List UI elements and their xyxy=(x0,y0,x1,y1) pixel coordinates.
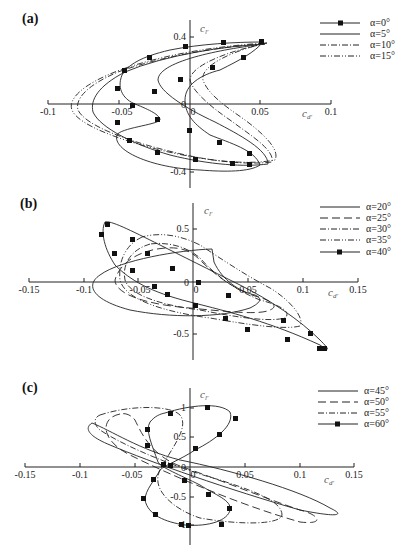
x-tick: -0.1 xyxy=(40,106,56,117)
figure: (a) -0.1 -0.05 0 0.05 0.1 0 0.4 -0.4 cl'… xyxy=(0,0,407,560)
legend-entry: α=35° xyxy=(366,234,391,245)
x-axis-label: cd' xyxy=(324,473,334,487)
x-tick: -0.1 xyxy=(76,284,92,295)
y-tick: 0.5 xyxy=(177,223,190,234)
legend-entry: α=50° xyxy=(364,396,389,407)
legend-c: α=45° α=50° α=55° α=60° xyxy=(318,385,389,429)
legend-entry: α=0° xyxy=(370,17,390,28)
legend-b: α=20° α=25° α=30° α=35° α=40° xyxy=(320,201,391,257)
y-axis-label: cl' xyxy=(200,22,209,36)
y-tick: 0.5 xyxy=(174,431,187,442)
legend-entry: α=10° xyxy=(370,39,395,50)
x-axis-label: cd' xyxy=(302,107,312,121)
panel-c: (c) -0.15 -0.1 -0.05 0 0.05 0.1 0.15 0 1… xyxy=(15,380,389,545)
legend-entry: α=55° xyxy=(364,407,389,418)
x-tick: -0.05 xyxy=(112,106,133,117)
y-axis-label: cl' xyxy=(204,204,213,218)
x-tick: 0.1 xyxy=(294,469,307,480)
panel-b: (b) -0.15 -0.1 -0.05 0 0.05 0.1 0.15 0 0… xyxy=(19,196,391,360)
panel-a-label: (a) xyxy=(22,11,39,27)
x-axis-label: cd' xyxy=(328,286,338,300)
x-tick: 0 xyxy=(191,469,196,480)
y-axis-label: cl' xyxy=(200,388,209,402)
curves-a xyxy=(71,42,276,171)
y-tick: -0.5 xyxy=(170,491,186,502)
y-tick: 0.4 xyxy=(174,31,187,42)
legend-entry: α=15° xyxy=(370,50,395,61)
origin-label: 0 xyxy=(184,277,189,288)
legend-entry: α=5° xyxy=(370,28,390,39)
x-tick: 0.05 xyxy=(251,106,269,117)
x-tick: -0.1 xyxy=(72,469,88,480)
x-tick: 0.1 xyxy=(297,284,310,295)
legend-a: α=0° α=5° α=10° α=15° xyxy=(320,17,395,61)
x-tick: -0.05 xyxy=(122,469,143,480)
legend-entry: α=25° xyxy=(366,212,391,223)
legend-entry: α=60° xyxy=(364,418,389,429)
legend-entry: α=30° xyxy=(366,223,391,234)
panel-a: (a) -0.1 -0.05 0 0.05 0.1 0 0.4 -0.4 cl'… xyxy=(22,11,395,188)
x-tick: 0.1 xyxy=(325,106,338,117)
legend-entry: α=45° xyxy=(364,385,389,396)
panel-c-label: (c) xyxy=(22,380,38,396)
x-tick: 0.15 xyxy=(349,284,367,295)
legend-entry: α=40° xyxy=(366,246,391,257)
x-tick: 0 xyxy=(194,284,199,295)
legend-entry: α=20° xyxy=(366,201,391,212)
x-tick: -0.15 xyxy=(19,284,40,295)
x-tick: 0.15 xyxy=(345,469,363,480)
panel-b-label: (b) xyxy=(20,196,37,212)
y-tick: -0.5 xyxy=(173,328,189,339)
x-tick: -0.15 xyxy=(15,469,36,480)
curves-b xyxy=(93,222,328,349)
